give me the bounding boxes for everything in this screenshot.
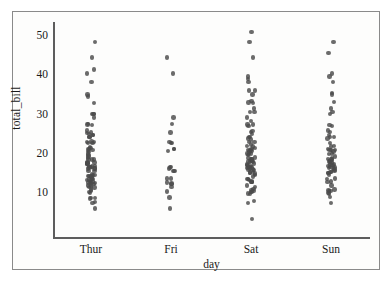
scatter-point <box>247 135 251 139</box>
scatter-point <box>326 164 330 168</box>
scatter-point <box>333 176 337 180</box>
scatter-point <box>250 157 254 161</box>
scatter-point <box>249 164 253 168</box>
scatter-point <box>249 137 253 141</box>
scatter-point <box>90 157 94 161</box>
scatter-point <box>251 55 255 59</box>
scatter-point <box>171 71 175 75</box>
scatter-point <box>326 171 330 175</box>
scatter-point <box>253 155 257 159</box>
scatter-point <box>247 40 251 44</box>
scatter-point <box>252 161 256 165</box>
scatter-point <box>330 160 334 164</box>
scatter-point <box>246 156 250 160</box>
scatter-point <box>86 141 90 145</box>
scatter-point <box>245 162 249 166</box>
scatter-point <box>246 167 250 171</box>
scatter-point <box>89 175 93 179</box>
scatter-point <box>246 191 250 195</box>
scatter-point <box>329 183 333 187</box>
scatter-point <box>327 173 331 177</box>
scatter-point <box>325 177 329 181</box>
scatter-point <box>172 147 176 151</box>
scatter-point <box>90 112 94 116</box>
x-tick-label-thur: Thur <box>51 243 131 255</box>
scatter-point <box>90 55 94 59</box>
scatter-point <box>328 159 332 163</box>
scatter-point <box>247 178 251 182</box>
scatter-point <box>249 130 253 134</box>
scatter-point <box>167 140 171 144</box>
x-axis-label: day <box>53 258 370 270</box>
scatter-point <box>246 80 250 84</box>
y-tick-text: 40 <box>26 68 48 80</box>
y-tick-label: 10 <box>26 186 48 198</box>
scatter-point <box>248 166 252 170</box>
scatter-point <box>85 178 89 182</box>
scatter-point <box>248 192 252 196</box>
scatter-point <box>248 170 252 174</box>
scatter-point <box>85 160 89 164</box>
scatter-point <box>329 144 333 148</box>
scatter-point <box>246 136 250 140</box>
scatter-point <box>87 135 91 139</box>
scatter-point <box>327 159 331 163</box>
scatter-point <box>168 165 172 169</box>
scatter-point <box>247 149 251 153</box>
scatter-point <box>168 206 172 210</box>
scatter-point <box>326 128 330 132</box>
scatter-point <box>89 189 93 193</box>
scatter-point <box>246 164 250 168</box>
scatter-point <box>250 157 254 161</box>
scatter-point <box>92 67 96 71</box>
scatter-point <box>86 156 90 160</box>
scatter-point <box>331 40 335 44</box>
scatter-point <box>87 165 91 169</box>
scatter-point <box>92 140 96 144</box>
scatter-point <box>246 159 250 163</box>
scatter-point <box>169 181 173 185</box>
scatter-point <box>327 74 331 78</box>
scatter-point <box>171 169 175 173</box>
scatter-point <box>329 170 333 174</box>
scatter-point <box>92 112 96 116</box>
scatter-point <box>249 30 253 34</box>
scatter-point <box>329 201 333 205</box>
scatter-point <box>250 165 254 169</box>
scatter-point <box>327 166 331 170</box>
scatter-point <box>251 167 255 171</box>
scatter-point <box>85 161 89 165</box>
scatter-point <box>333 148 337 152</box>
scatter-point <box>330 71 334 75</box>
scatter-point <box>93 164 97 168</box>
scatter-point <box>169 176 173 180</box>
scatter-point <box>87 150 91 154</box>
scatter-point <box>332 187 336 191</box>
scatter-point <box>330 156 334 160</box>
scatter-point <box>329 157 333 161</box>
x-tick-label-fri: Fri <box>131 243 211 255</box>
scatter-point <box>165 55 169 59</box>
scatter-point <box>328 170 332 174</box>
scatter-point <box>93 196 97 200</box>
scatter-point <box>85 128 89 132</box>
scatter-point <box>245 177 249 181</box>
scatter-point <box>87 132 91 136</box>
scatter-point <box>245 183 249 187</box>
scatter-point <box>92 182 96 186</box>
scatter-point <box>86 174 90 178</box>
y-tick-label: 30 <box>26 108 48 120</box>
scatter-point <box>251 144 255 148</box>
scatter-point <box>328 159 332 163</box>
scatter-point <box>245 115 249 119</box>
scatter-point <box>89 80 93 84</box>
scatter-point <box>332 169 336 173</box>
scatter-point <box>86 151 90 155</box>
scatter-point <box>328 195 332 199</box>
scatter-point <box>91 173 95 177</box>
scatter-point <box>169 182 173 186</box>
scatter-point <box>89 184 93 188</box>
scatter-point <box>250 217 254 221</box>
scatter-point <box>251 159 255 163</box>
scatter-point <box>245 144 249 148</box>
